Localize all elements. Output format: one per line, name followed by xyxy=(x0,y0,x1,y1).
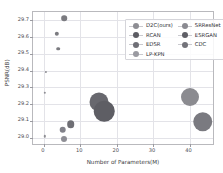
data-point-bubble xyxy=(61,136,67,142)
data-point-bubble xyxy=(181,88,199,106)
x-tick-label: 30 xyxy=(149,148,155,153)
legend-label: EDSR xyxy=(146,42,160,47)
legend-dot-icon xyxy=(133,42,139,48)
data-point-bubble xyxy=(61,16,67,22)
gridline-vertical xyxy=(117,12,118,144)
y-axis-label: PSNR(dB) xyxy=(5,43,11,103)
y-tick-label: 29.6 xyxy=(18,34,29,39)
y-tick-mark xyxy=(30,20,33,21)
legend-marker xyxy=(129,41,143,49)
data-point-bubble xyxy=(45,71,47,73)
y-tick-mark xyxy=(30,54,33,55)
data-point-bubble xyxy=(55,32,59,36)
y-tick-mark xyxy=(30,71,33,72)
data-point-bubble xyxy=(193,112,213,132)
legend-label: ESRGAN xyxy=(195,33,217,38)
legend-marker xyxy=(129,31,143,39)
legend-item-srresnet[interactable]: SRResNet xyxy=(178,22,221,30)
legend-column-1: D2C(ours)RCANEDSRLP-KPN xyxy=(129,22,173,57)
x-axis-tick-labels: 010203040 xyxy=(0,148,223,157)
data-point-bubble xyxy=(67,120,75,128)
y-tick-mark xyxy=(30,121,33,122)
legend-label: SRResNet xyxy=(195,23,221,28)
legend-dot-icon xyxy=(133,32,139,38)
y-tick-label: 29.3 xyxy=(18,84,29,89)
legend-dot-icon xyxy=(182,42,188,48)
y-tick-mark xyxy=(30,138,33,139)
gridline-horizontal xyxy=(33,121,213,122)
data-point-bubble xyxy=(94,101,115,122)
data-point-bubble xyxy=(57,47,61,51)
legend-marker xyxy=(178,31,192,39)
y-tick-label: 29.2 xyxy=(18,101,29,106)
data-point-bubble xyxy=(60,126,67,133)
y-tick-label: 29.1 xyxy=(18,117,29,122)
legend-label: D2C(ours) xyxy=(146,23,173,28)
gridline-vertical xyxy=(80,12,81,144)
legend-marker xyxy=(178,22,192,30)
gridline-horizontal xyxy=(33,138,213,139)
legend-marker xyxy=(129,50,143,58)
legend-item-d2c-ours[interactable]: D2C(ours) xyxy=(129,22,173,30)
plot-area: D2C(ours)RCANEDSRLP-KPNSRResNetESRGANCDC xyxy=(32,11,214,145)
legend-item-lp-kpn[interactable]: LP-KPN xyxy=(129,50,173,58)
y-tick-mark xyxy=(30,87,33,88)
legend-label: RCAN xyxy=(146,33,161,38)
y-tick-label: 29.4 xyxy=(18,67,29,72)
legend-dot-icon xyxy=(133,51,139,57)
legend-column-2: SRResNetESRGANCDC xyxy=(178,22,221,57)
legend-item-esrgan[interactable]: ESRGAN xyxy=(178,31,221,39)
legend-item-cdc[interactable]: CDC xyxy=(178,41,221,49)
legend: D2C(ours)RCANEDSRLP-KPNSRResNetESRGANCDC xyxy=(125,19,223,60)
x-tick-label: 10 xyxy=(76,148,82,153)
x-axis-label: Number of Parameters(M) xyxy=(32,160,214,166)
y-tick-label: 29.7 xyxy=(18,17,29,22)
legend-marker xyxy=(129,22,143,30)
legend-label: LP-KPN xyxy=(146,52,165,57)
legend-columns: D2C(ours)RCANEDSRLP-KPNSRResNetESRGANCDC xyxy=(129,22,223,57)
legend-marker xyxy=(178,41,192,49)
legend-label: CDC xyxy=(195,42,206,47)
y-tick-label: 29.0 xyxy=(18,134,29,139)
y-tick-label: 29.5 xyxy=(18,50,29,55)
legend-dot-icon xyxy=(182,32,188,38)
x-tick-label: 20 xyxy=(112,148,118,153)
legend-dot-icon xyxy=(182,23,188,29)
legend-item-rcan[interactable]: RCAN xyxy=(129,31,173,39)
gridline-vertical xyxy=(44,12,45,144)
x-tick-label: 40 xyxy=(185,148,191,153)
legend-item-edsr[interactable]: EDSR xyxy=(129,41,173,49)
y-tick-mark xyxy=(30,37,33,38)
x-tick-label: 0 xyxy=(41,148,44,153)
gridline-horizontal xyxy=(33,71,213,72)
y-tick-mark xyxy=(30,104,33,105)
legend-dot-icon xyxy=(133,23,139,29)
scatter-chart-figure: D2C(ours)RCANEDSRLP-KPNSRResNetESRGANCDC… xyxy=(0,0,223,173)
